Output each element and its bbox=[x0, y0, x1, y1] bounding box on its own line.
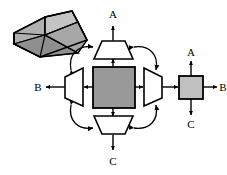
label-bottom-axis-c: C bbox=[109, 155, 116, 167]
label-small-square-b: B bbox=[219, 81, 226, 93]
center-square bbox=[93, 67, 135, 108]
small-square bbox=[179, 76, 203, 99]
label-small-square-c: C bbox=[187, 118, 194, 130]
diagram-canvas: A B C A B C bbox=[0, 0, 227, 175]
label-top-axis-a: A bbox=[109, 8, 117, 20]
label-small-square-a: A bbox=[187, 46, 195, 58]
label-left-axis-b: B bbox=[34, 81, 41, 93]
